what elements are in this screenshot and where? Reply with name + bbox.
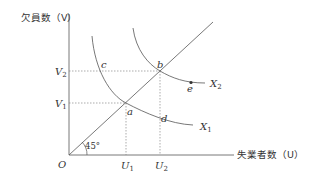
curve-x2 [133,28,205,83]
x-axis-label: 失業者数（U） [237,149,304,160]
uv-diagram: 欠員数（V） 失業者数（U） O 45° V2 V1 U1 U2 a b c d… [0,0,309,178]
origin-label: O [58,159,66,170]
point-c-label: c [101,59,107,70]
curve-x2-label: X2 [209,78,222,91]
point-d-label: d [161,113,167,124]
angle-label: 45° [85,141,100,151]
curve-x1 [92,36,193,125]
v1-label: V1 [55,98,67,111]
point-e-label: e [187,83,193,94]
u2-label: U2 [155,160,168,173]
u1-label: U1 [121,160,134,173]
point-b-label: b [157,59,163,70]
v2-label: V2 [55,66,67,79]
point-a-label: a [127,106,133,117]
curve-x1-label: X1 [199,121,212,134]
y-axis-label: 欠員数（V） [21,12,78,23]
